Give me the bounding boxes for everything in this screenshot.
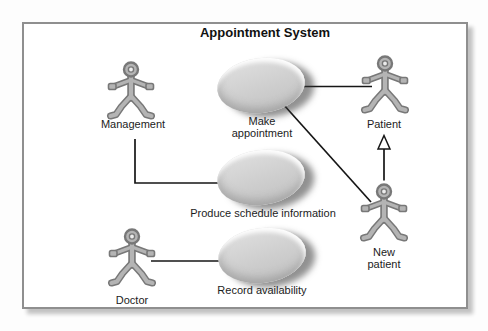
actor-patient-icon	[359, 54, 411, 114]
actor-patient-label: Patient	[334, 118, 434, 130]
actor-doctor-icon	[106, 227, 158, 287]
usecase-record-availability-label: Record availability	[162, 284, 362, 296]
usecase-make-appointment-label: Make appointment	[227, 115, 297, 139]
actor-management-label: Management	[83, 118, 183, 130]
actor-management-icon	[105, 60, 157, 120]
diagram-title: Appointment System	[165, 25, 365, 40]
actor-new-patient-label: New patient	[360, 246, 408, 270]
usecase-produce-schedule-label: Produce schedule information	[113, 207, 413, 219]
